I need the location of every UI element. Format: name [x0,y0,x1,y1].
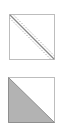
diagonal-line-with-tolerance-icon[interactable] [9,14,55,60]
half-filled-svg [8,77,55,123]
half-filled-triangle-icon[interactable] [8,77,55,123]
diagonal-line-svg [9,14,55,60]
